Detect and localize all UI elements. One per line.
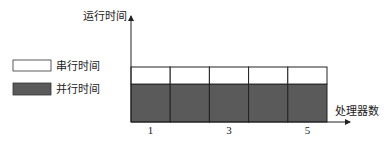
bar-serial-1	[131, 67, 170, 84]
bars-group	[131, 67, 327, 122]
x-tick-labels: 135	[148, 124, 311, 136]
legend-label-parallel: 并行时间	[56, 82, 100, 96]
x-tick-label-5: 5	[305, 124, 311, 136]
legend: 串行时间 并行时间	[13, 60, 100, 96]
bar-serial-5	[288, 67, 327, 84]
legend-swatch-parallel	[13, 83, 51, 95]
bar-parallel-1	[131, 84, 170, 122]
bar-parallel-4	[249, 84, 288, 122]
chart: 运行时间 处理器数 135 串行时间 并行时间	[0, 0, 390, 144]
x-axis-label: 处理器数	[335, 105, 379, 118]
legend-swatch-serial	[13, 60, 51, 71]
x-tick-label-3: 3	[226, 124, 232, 136]
bar-serial-3	[209, 67, 248, 84]
bar-parallel-2	[170, 84, 209, 122]
y-axis-label: 运行时间	[83, 10, 127, 23]
bar-serial-4	[249, 67, 288, 84]
bar-parallel-3	[209, 84, 248, 122]
x-tick-label-1: 1	[148, 124, 154, 136]
bar-parallel-5	[288, 84, 327, 122]
legend-label-serial: 串行时间	[56, 60, 100, 73]
bar-serial-2	[170, 67, 209, 84]
